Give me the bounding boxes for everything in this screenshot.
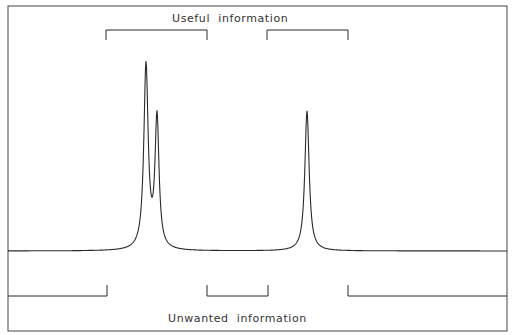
spectrum-diagram (0, 0, 514, 335)
useful-bracket-2 (267, 30, 348, 40)
diagram-frame (8, 6, 507, 331)
unwanted-bracket-3 (348, 285, 507, 296)
useful-information-label: Useful information (172, 12, 288, 25)
unwanted-bracket-1 (8, 285, 107, 296)
spectrum-trace (8, 61, 507, 251)
unwanted-bracket-2 (207, 285, 268, 296)
useful-bracket-1 (106, 30, 207, 40)
unwanted-information-label: Unwanted information (168, 312, 307, 325)
